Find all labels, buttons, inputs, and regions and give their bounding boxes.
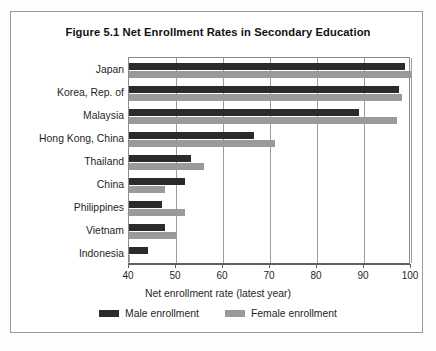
- tick-label-50: 50: [169, 270, 180, 281]
- x-axis-title: Net enrollment rate (latest year): [0, 288, 436, 299]
- tick-mark-80: [316, 264, 317, 268]
- category-label: Korea, Rep. of: [14, 87, 124, 98]
- category-label: Malaysia: [14, 110, 124, 121]
- tick-mark-40: [128, 264, 129, 268]
- bar-male: [129, 224, 165, 231]
- category-label: Vietnam: [14, 225, 124, 236]
- bar-male: [129, 247, 148, 254]
- tick-label-90: 90: [357, 270, 368, 281]
- bar-male: [129, 132, 254, 139]
- tick-label-40: 40: [122, 270, 133, 281]
- figure-container: Figure 5.1 Net Enrollment Rates in Secon…: [0, 0, 436, 351]
- bar-male: [129, 201, 162, 208]
- bar-female: [129, 117, 397, 124]
- tick-mark-100: [410, 264, 411, 268]
- bar-female: [129, 209, 185, 216]
- bar-male: [129, 155, 191, 162]
- tick-mark-70: [269, 264, 270, 268]
- plot-area: [128, 57, 410, 264]
- tick-mark-60: [222, 264, 223, 268]
- tick-mark-50: [175, 264, 176, 268]
- bar-female: [129, 186, 165, 193]
- legend-item: Female enrollment: [225, 308, 337, 319]
- bar-female: [129, 71, 411, 78]
- chart-legend: Male enrollmentFemale enrollment: [0, 308, 436, 319]
- category-axis-labels: JapanKorea, Rep. ofMalaysiaHong Kong, Ch…: [14, 57, 124, 264]
- bars-layer: [129, 58, 409, 263]
- legend-label: Female enrollment: [251, 308, 337, 319]
- bar-male: [129, 63, 405, 70]
- category-label: Philippines: [14, 202, 124, 213]
- legend-swatch-icon: [225, 310, 245, 317]
- legend-label: Male enrollment: [125, 308, 199, 319]
- bar-female: [129, 94, 402, 101]
- category-label: Thailand: [14, 156, 124, 167]
- tick-label-80: 80: [310, 270, 321, 281]
- category-label: Indonesia: [14, 248, 124, 259]
- tick-mark-90: [363, 264, 364, 268]
- category-label: China: [14, 179, 124, 190]
- legend-swatch-icon: [99, 310, 119, 317]
- chart-title: Figure 5.1 Net Enrollment Rates in Secon…: [0, 26, 436, 38]
- bar-female: [129, 232, 176, 239]
- gridline-100: [411, 58, 412, 263]
- tick-label-70: 70: [263, 270, 274, 281]
- tick-label-100: 100: [402, 270, 419, 281]
- category-label: Hong Kong, China: [14, 133, 124, 144]
- category-label: Japan: [14, 64, 124, 75]
- bar-female: [129, 163, 204, 170]
- legend-item: Male enrollment: [99, 308, 199, 319]
- bar-female: [129, 255, 130, 262]
- tick-label-60: 60: [216, 270, 227, 281]
- bar-male: [129, 86, 399, 93]
- bar-male: [129, 178, 185, 185]
- bar-male: [129, 109, 359, 116]
- bar-female: [129, 140, 275, 147]
